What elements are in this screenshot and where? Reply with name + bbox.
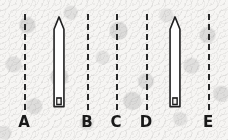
axis-label-c: C [108,115,124,130]
probe-needle-right [167,15,183,110]
figure-canvas: A B C D E [0,0,228,140]
reference-line-c [116,14,118,110]
axis-label-d: D [138,115,154,130]
axis-label-a: A [16,115,32,130]
reference-line-d [146,14,148,110]
reference-line-e [208,14,210,110]
reference-line-a [24,14,26,110]
axis-label-e: E [200,115,216,130]
reference-line-b [87,14,89,110]
axis-label-b: B [79,115,95,130]
probe-needle-left [51,15,67,110]
